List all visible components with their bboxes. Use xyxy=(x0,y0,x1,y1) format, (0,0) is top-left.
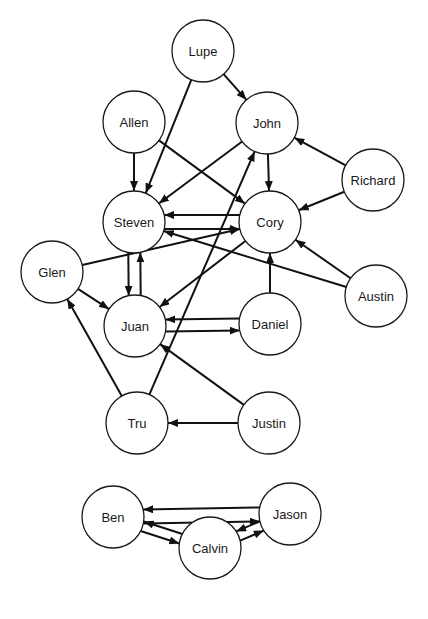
edge-austin-to-cory xyxy=(295,240,350,279)
arrow-icon xyxy=(165,318,239,319)
arrow-icon xyxy=(240,531,264,541)
edge-calvin-to-jason xyxy=(240,531,264,541)
arrow-icon xyxy=(268,154,269,191)
node-allen: Allen xyxy=(103,91,165,153)
node-austin: Austin xyxy=(345,265,407,327)
node-richard: Richard xyxy=(342,149,404,211)
node-daniel: Daniel xyxy=(239,293,301,355)
edge-glen-to-juan xyxy=(78,289,109,309)
node-glen: Glen xyxy=(21,241,83,303)
arrow-icon xyxy=(294,138,345,166)
edge-tru-to-john xyxy=(149,151,254,394)
arrow-icon xyxy=(78,289,109,309)
edge-john-to-steven xyxy=(159,142,242,204)
node-label: Glen xyxy=(38,265,65,280)
node-label: Juan xyxy=(121,319,149,334)
node-label: Tru xyxy=(127,416,146,431)
arrow-icon xyxy=(141,531,180,543)
node-juan: Juan xyxy=(104,295,166,357)
arrow-icon xyxy=(224,74,247,100)
directed-graph: LupeAllenJohnRichardStevenCoryGlenAustin… xyxy=(0,0,428,619)
node-cory: Cory xyxy=(239,191,301,253)
node-ben: Ben xyxy=(82,486,144,548)
node-label: Allen xyxy=(120,115,149,130)
nodes-layer: LupeAllenJohnRichardStevenCoryGlenAustin… xyxy=(21,20,407,579)
node-label: Justin xyxy=(252,416,286,431)
node-label: Austin xyxy=(358,289,394,304)
node-label: Daniel xyxy=(252,317,289,332)
arrow-icon xyxy=(236,521,260,531)
node-steven: Steven xyxy=(103,191,165,253)
node-calvin: Calvin xyxy=(179,517,241,579)
edge-richard-to-cory xyxy=(299,192,345,211)
node-justin: Justin xyxy=(238,392,300,454)
arrow-icon xyxy=(295,240,350,279)
node-label: Steven xyxy=(114,215,154,230)
edge-ben-to-calvin xyxy=(141,531,180,543)
node-label: Ben xyxy=(101,510,124,525)
node-tru: Tru xyxy=(106,392,168,454)
node-label: Cory xyxy=(256,215,284,230)
node-label: Richard xyxy=(351,173,396,188)
edge-jason-to-ben xyxy=(143,508,260,510)
arrow-icon xyxy=(149,151,254,394)
arrow-icon xyxy=(159,142,242,204)
edge-john-to-cory xyxy=(268,154,269,191)
node-label: Lupe xyxy=(189,44,218,59)
node-jason: Jason xyxy=(259,483,321,545)
edge-daniel-to-juan xyxy=(165,318,239,319)
node-john: John xyxy=(236,92,298,154)
arrow-icon xyxy=(299,192,345,211)
node-label: Jason xyxy=(273,507,308,522)
edge-lupe-to-john xyxy=(224,74,247,100)
node-label: Calvin xyxy=(192,541,228,556)
edge-justin-to-juan xyxy=(160,344,244,405)
node-label: John xyxy=(253,116,281,131)
edge-jason-to-calvin xyxy=(236,521,260,531)
arrow-icon xyxy=(160,344,244,405)
arrow-icon xyxy=(143,508,260,510)
edge-richard-to-john xyxy=(294,138,345,166)
node-lupe: Lupe xyxy=(172,20,234,82)
